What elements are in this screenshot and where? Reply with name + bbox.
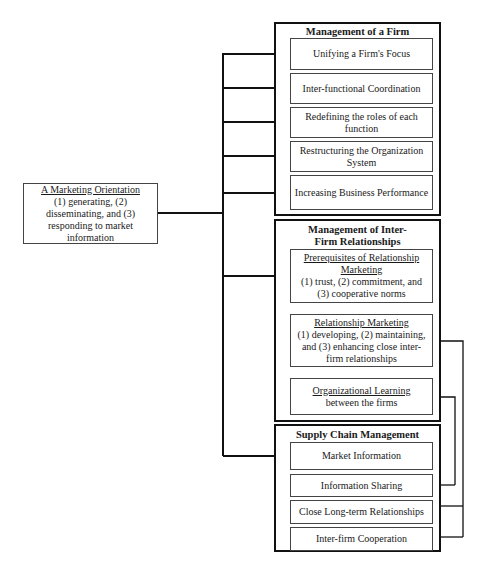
item-information-sharing: Information Sharing [290,474,433,497]
marketing-orientation-title: A Marketing Orientation [41,184,140,196]
item-redefining-roles: Redefining the roles of each function [290,107,433,138]
item-title: Organizational Learning [313,385,411,397]
item-body: (1) developing, (2) maintaining, and (3)… [294,329,429,365]
item-label: Redefining the roles of each function [294,111,429,135]
group-title: Management of Inter-Firm Relationships [276,224,439,248]
item-label: Market Information [322,450,401,462]
item-title: Relationship Marketing [314,317,409,329]
item-relationship-marketing: Relationship Marketing (1) developing, (… [290,314,433,367]
item-label: Inter-functional Coordination [303,83,421,95]
item-label: Close Long-term Relationships [299,506,424,518]
marketing-orientation-body: (1) generating, (2) disseminating, and (… [27,196,154,244]
item-body: between the firms [326,397,398,409]
item-market-information: Market Information [290,442,433,470]
item-label: Increasing Business Performance [295,187,428,199]
item-label: Inter-firm Cooperation [316,533,407,545]
item-inter-firm-cooperation: Inter-firm Cooperation [290,527,433,551]
item-body: (1) trust, (2) commitment, and (3) coope… [294,276,429,300]
group-title: Supply Chain Management [276,429,439,441]
item-increasing-performance: Increasing Business Performance [290,175,433,210]
item-label: Information Sharing [321,480,402,492]
group-title: Management of a Firm [276,26,439,38]
item-prerequisites: Prerequisites of Relationship Marketing … [290,249,433,303]
item-close-long-term-relationships: Close Long-term Relationships [290,500,433,524]
marketing-orientation-box: A Marketing Orientation (1) generating, … [23,183,158,244]
item-label: Unifying a Firm's Focus [313,48,410,60]
item-title: Prerequisites of Relationship Marketing [294,252,429,276]
item-inter-functional-coordination: Inter-functional Coordination [290,73,433,104]
item-label: Restructuring the Organization System [294,145,429,169]
item-restructuring-organization: Restructuring the Organization System [290,141,433,172]
item-unifying-focus: Unifying a Firm's Focus [290,38,433,70]
item-organizational-learning: Organizational Learning between the firm… [290,378,433,415]
